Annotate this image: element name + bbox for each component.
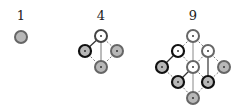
diagram-1 — [15, 31, 27, 43]
diagram-9 — [156, 30, 230, 104]
node — [15, 31, 27, 43]
lattice-diagrams — [0, 0, 247, 110]
diagram-4 — [79, 30, 123, 73]
